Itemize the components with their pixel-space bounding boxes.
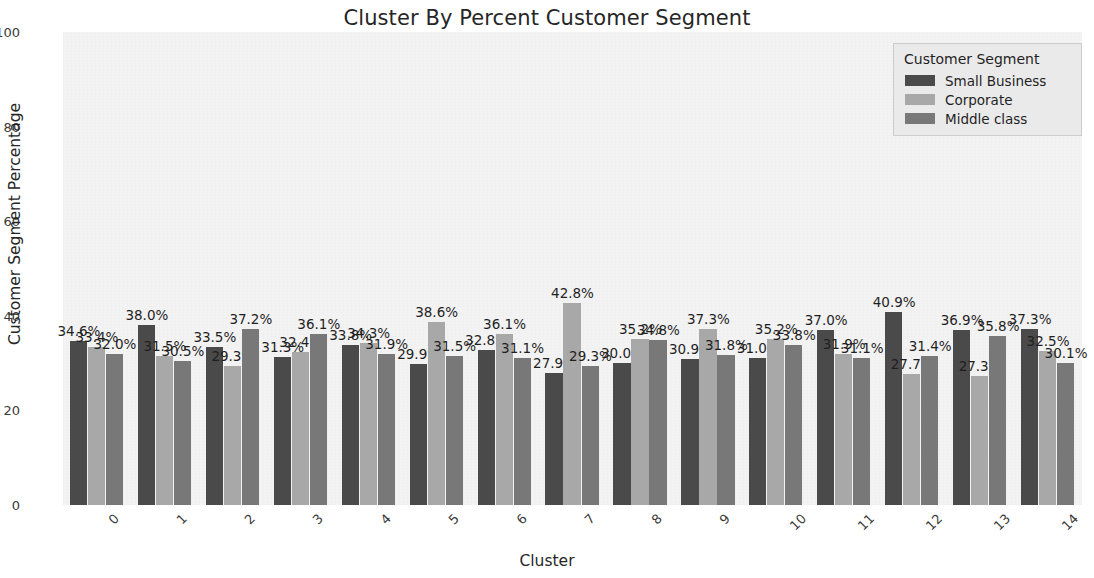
bar-value-label: 40.9% bbox=[873, 294, 916, 310]
chart-figure: Cluster By Percent Customer Segment 34.6… bbox=[0, 0, 1094, 578]
bar bbox=[885, 312, 902, 505]
legend-entry: Small Business bbox=[905, 71, 1073, 90]
bar bbox=[545, 373, 562, 505]
legend-label: Small Business bbox=[945, 73, 1046, 89]
bar bbox=[342, 345, 359, 505]
bar bbox=[767, 339, 784, 505]
bar-value-label: 37.3% bbox=[687, 311, 730, 327]
bar bbox=[206, 347, 223, 505]
bar bbox=[106, 354, 123, 505]
bar bbox=[903, 374, 920, 505]
bar bbox=[971, 376, 988, 505]
bar bbox=[410, 364, 427, 505]
x-axis-tick-label: 6 bbox=[513, 511, 529, 527]
legend-label: Corporate bbox=[945, 92, 1013, 108]
bar bbox=[835, 354, 852, 505]
legend-swatch-icon bbox=[905, 113, 935, 124]
bar-value-label: 37.3% bbox=[1009, 311, 1052, 327]
x-axis-tick-label: 7 bbox=[581, 511, 597, 527]
bar bbox=[749, 358, 766, 505]
bar bbox=[953, 330, 970, 505]
legend-label: Middle class bbox=[945, 111, 1027, 127]
x-axis-tick-label: 1 bbox=[173, 511, 189, 527]
bar bbox=[921, 356, 938, 505]
bar bbox=[681, 359, 698, 505]
bar bbox=[292, 352, 309, 505]
bar bbox=[1039, 351, 1056, 505]
bar-value-label: 42.8% bbox=[551, 285, 594, 301]
bar-value-label: 34.8% bbox=[637, 322, 680, 338]
bar bbox=[514, 358, 531, 505]
y-axis-label: Customer Segment Percentage bbox=[6, 24, 24, 424]
x-axis-tick-label: 9 bbox=[717, 511, 733, 527]
legend-title: Customer Segment bbox=[904, 51, 1073, 67]
bar bbox=[274, 357, 291, 505]
bar bbox=[563, 303, 580, 505]
bar bbox=[631, 339, 648, 505]
bar bbox=[785, 345, 802, 505]
bar-value-label: 31.4% bbox=[909, 338, 952, 354]
bar bbox=[989, 336, 1006, 505]
bar bbox=[378, 354, 395, 505]
bar bbox=[478, 350, 495, 505]
y-axis-tick-label: 0 bbox=[0, 498, 20, 513]
legend-entries: Small BusinessCorporateMiddle class bbox=[902, 71, 1073, 128]
bar bbox=[446, 356, 463, 505]
x-axis-tick-label: 14 bbox=[1059, 511, 1081, 533]
chart-title: Cluster By Percent Customer Segment bbox=[0, 6, 1094, 30]
x-axis-tick-label: 4 bbox=[377, 511, 393, 527]
bar bbox=[224, 366, 241, 505]
bar-value-label: 37.0% bbox=[805, 312, 848, 328]
bar bbox=[310, 334, 327, 505]
bar bbox=[88, 347, 105, 505]
bar bbox=[717, 355, 734, 505]
bar bbox=[649, 340, 666, 505]
bar bbox=[1057, 363, 1074, 505]
bar-value-label: 37.2% bbox=[229, 311, 272, 327]
x-axis-tick-label: 3 bbox=[309, 511, 325, 527]
bar-value-label: 32.0% bbox=[94, 336, 137, 352]
bar-value-label: 33.5% bbox=[193, 329, 236, 345]
x-axis-tick-label: 11 bbox=[855, 511, 877, 533]
bar-value-label: 31.1% bbox=[841, 340, 884, 356]
bar bbox=[699, 329, 716, 505]
bar-value-label: 30.1% bbox=[1045, 345, 1088, 361]
x-axis-tick-label: 8 bbox=[649, 511, 665, 527]
x-axis-tick-label: 12 bbox=[923, 511, 945, 533]
legend-entry: Corporate bbox=[905, 90, 1073, 109]
bar bbox=[613, 363, 630, 505]
legend-entry: Middle class bbox=[905, 109, 1073, 128]
bar-value-label: 33.8% bbox=[773, 327, 816, 343]
legend-swatch-icon bbox=[905, 75, 935, 86]
x-axis-tick-label: 5 bbox=[445, 511, 461, 527]
bar-value-label: 31.1% bbox=[501, 340, 544, 356]
x-axis-label: Cluster bbox=[0, 552, 1094, 570]
bar bbox=[582, 366, 599, 505]
legend: Customer Segment Small BusinessCorporate… bbox=[893, 43, 1082, 136]
bar-value-label: 38.6% bbox=[415, 304, 458, 320]
bar-value-label: 30.5% bbox=[161, 343, 204, 359]
bar bbox=[174, 361, 191, 505]
bar bbox=[817, 330, 834, 505]
bar-value-label: 36.1% bbox=[483, 316, 526, 332]
x-axis-tick-label: 10 bbox=[787, 511, 809, 533]
x-axis-tick-label: 13 bbox=[991, 511, 1013, 533]
bar bbox=[156, 356, 173, 505]
x-axis-tick-label: 2 bbox=[241, 511, 257, 527]
x-axis-tick-label: 0 bbox=[105, 511, 121, 527]
bar-value-label: 38.0% bbox=[125, 307, 168, 323]
legend-swatch-icon bbox=[905, 94, 935, 105]
bar bbox=[1021, 329, 1038, 505]
bar bbox=[496, 334, 513, 505]
bar bbox=[70, 341, 87, 505]
bar bbox=[242, 329, 259, 505]
bar bbox=[853, 358, 870, 505]
bar bbox=[360, 343, 377, 505]
